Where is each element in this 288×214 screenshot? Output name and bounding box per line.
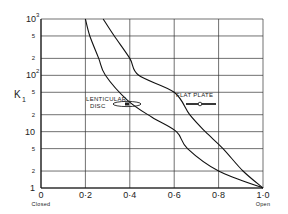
y-tick-label: 5: [32, 146, 36, 152]
x-tick-sublabel: Open: [256, 201, 271, 207]
y-tick-label: 10: [26, 14, 36, 24]
x-tick-label: 1·0: [256, 190, 269, 200]
chart-container: 103521025210521 0Closed0·20·40·60·81·0Op…: [0, 0, 288, 214]
y-tick-label: 5: [32, 33, 36, 39]
x-tick-label: 0·6: [168, 190, 181, 200]
x-tick-label: 0·4: [123, 190, 136, 200]
y-tick-label: 10: [25, 127, 35, 137]
x-tick-label: 0·2: [79, 190, 92, 200]
flat-plate-icon: [186, 102, 216, 106]
y-tick-exponent: 3: [36, 12, 40, 18]
y-axis-label-subscript: 1: [22, 96, 26, 103]
y-tick-label: 1: [30, 183, 35, 193]
x-tick-sublabel: Closed: [32, 201, 51, 207]
flat-plate-label: FLAT PLATE: [176, 92, 213, 98]
y-tick-label: 2: [32, 168, 36, 174]
y-tick-label: 10: [26, 70, 36, 80]
lenticular-disc-annotation: LENTICULAR DISC: [86, 96, 141, 109]
lenticular-label-line1: LENTICULAR: [86, 96, 127, 102]
grid: [41, 19, 263, 188]
chart-svg: 103521025210521 0Closed0·20·40·60·81·0Op…: [0, 0, 288, 214]
flat-plate-annotation: FLAT PLATE: [176, 92, 216, 106]
y-tick-exponent: 2: [36, 68, 40, 74]
y-tick-label: 5: [32, 89, 36, 95]
y-tick-label: 2: [32, 112, 36, 118]
x-tick-label: 0·8: [212, 190, 225, 200]
x-tick-label: 0: [38, 190, 43, 200]
lenticular-disc-icon: [113, 101, 141, 106]
lenticular-label-line2: DISC: [90, 103, 106, 109]
x-axis-ticks: 0Closed0·20·40·60·81·0Open: [32, 190, 271, 207]
y-axis-label: K: [14, 89, 21, 100]
y-tick-label: 2: [32, 55, 36, 61]
axes: [41, 19, 263, 188]
y-axis-ticks: 103521025210521: [25, 12, 40, 193]
